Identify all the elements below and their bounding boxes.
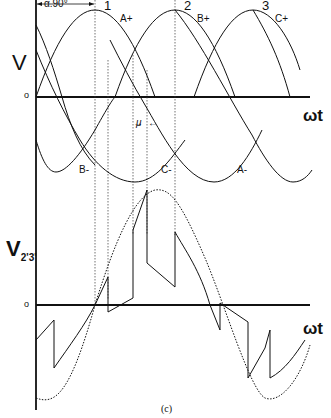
phase-label-c-plus: C+: [275, 14, 288, 24]
phase-label-b-plus: B+: [197, 14, 210, 24]
bottom-y-axis-subscript: 2'3': [21, 252, 37, 263]
phase-label-a-minus: A-: [237, 165, 247, 175]
phase-label-c-minus: C-: [161, 165, 172, 175]
line-voltage-waveform: [36, 190, 310, 400]
phase-label-b-minus: B-: [79, 165, 89, 175]
top-origin-label: o: [24, 91, 29, 100]
waveform-diagram: [0, 0, 331, 418]
bottom-x-axis-label: ωt: [303, 320, 323, 337]
commutation-number-2: 2: [184, 0, 191, 12]
overlap-label: μ: [136, 118, 141, 128]
phase-label-a-plus: A+: [120, 14, 133, 24]
commutation-number-1: 1: [104, 0, 111, 12]
angle-annotation-label: α.90°: [44, 0, 68, 9]
commutation-number-3: 3: [262, 0, 269, 12]
commutation-guides: [95, 0, 175, 305]
bottom-origin-label: o: [24, 300, 29, 309]
top-x-axis-label: ωt: [303, 107, 323, 124]
overlap-arrow-right: ←: [148, 118, 158, 128]
figure-caption: (c): [161, 404, 172, 414]
bottom-y-axis-label: V2'3': [6, 238, 37, 263]
top-y-axis-label: V: [12, 52, 27, 74]
